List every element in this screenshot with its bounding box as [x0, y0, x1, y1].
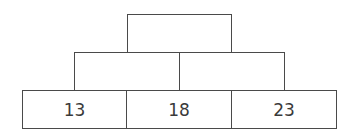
pyramid-bottom-left-cell: 13 [22, 90, 127, 129]
pyramid-middle-right-cell [179, 52, 285, 91]
pyramid-bottom-middle-cell: 18 [126, 90, 232, 129]
pyramid-top-cell [127, 14, 232, 53]
pyramid-middle-left-cell [74, 52, 180, 91]
pyramid-bottom-right-cell: 23 [231, 90, 337, 129]
